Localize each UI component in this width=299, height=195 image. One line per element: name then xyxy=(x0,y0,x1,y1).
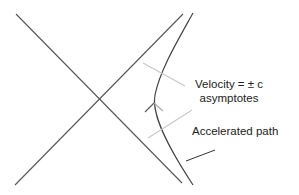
velocity-label: Velocity = ± c xyxy=(189,78,269,91)
asymptote-marker-upper xyxy=(143,63,185,86)
light-cone-line-descending xyxy=(16,14,182,183)
asymptotes-label: asymptotes xyxy=(189,92,269,105)
accelerated-path-leader-line xyxy=(186,150,215,161)
light-cone-line-ascending xyxy=(15,14,183,185)
hyperbolic-accelerated-path xyxy=(154,13,193,185)
accelerated-path-label: Accelerated path xyxy=(192,125,278,138)
asymptote-marker-lower xyxy=(148,110,192,138)
